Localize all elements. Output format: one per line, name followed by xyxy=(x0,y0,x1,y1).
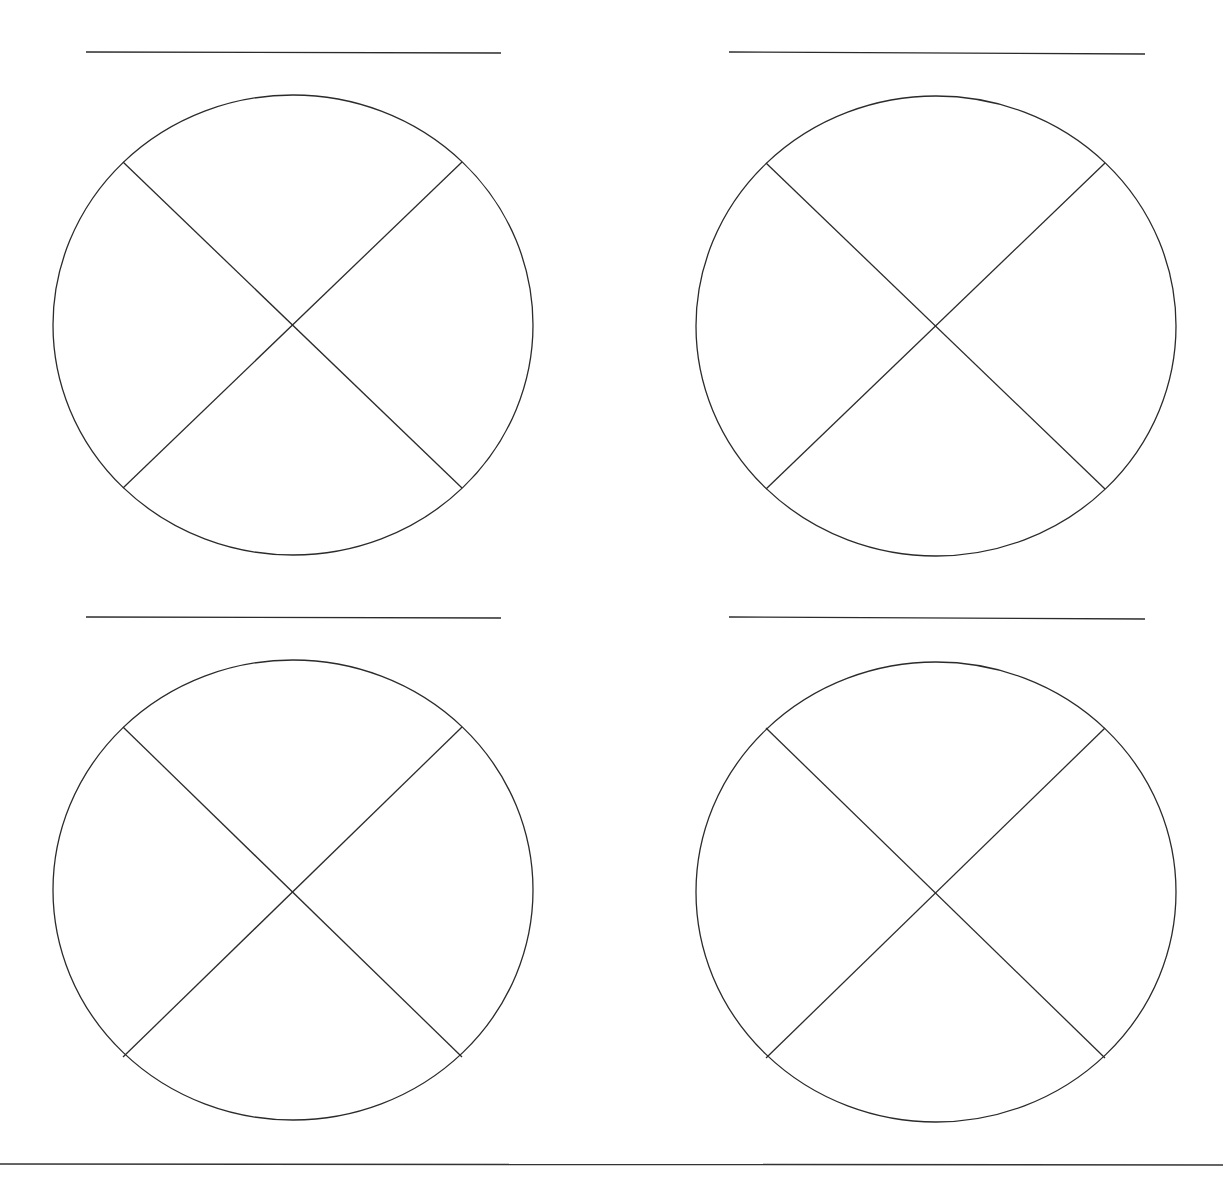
worksheet-canvas xyxy=(0,0,1223,1181)
title-write-line[interactable] xyxy=(729,617,1145,619)
panel-bottom-left xyxy=(53,617,533,1120)
panel-top-right xyxy=(696,52,1176,556)
panel-top-left xyxy=(53,52,533,555)
title-write-line[interactable] xyxy=(729,52,1145,54)
title-write-line[interactable] xyxy=(86,52,501,53)
page-footer-rule xyxy=(0,1164,1223,1165)
worksheet-page xyxy=(0,0,1223,1181)
title-write-line[interactable] xyxy=(86,617,501,618)
panel-bottom-right xyxy=(696,617,1176,1122)
